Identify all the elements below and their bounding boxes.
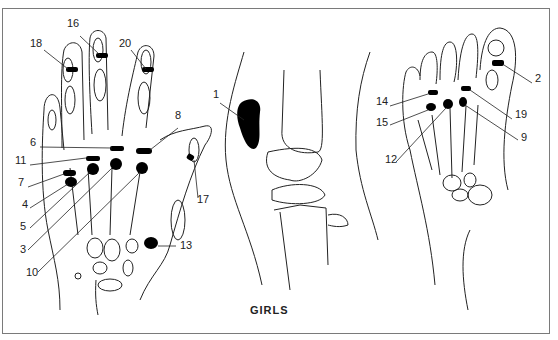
callout-label-5: 5	[20, 221, 26, 232]
callout-label-6: 6	[30, 137, 36, 148]
knee-drawing	[225, 52, 378, 290]
callout-label-10: 10	[26, 267, 38, 278]
callout-label-15: 15	[376, 117, 388, 128]
callout-label-14: 14	[376, 96, 388, 107]
callout-label-3: 3	[20, 244, 26, 255]
callout-label-19: 19	[515, 109, 527, 120]
callout-label-12: 12	[385, 154, 397, 165]
foot-drawing	[403, 28, 516, 310]
ossification-diagram	[0, 0, 558, 340]
callout-label-11: 11	[15, 155, 26, 166]
callout-label-4: 4	[22, 199, 28, 210]
callout-label-20: 20	[119, 38, 131, 49]
callout-label-7: 7	[18, 177, 24, 188]
callout-label-18: 18	[30, 38, 42, 49]
callout-label-16: 16	[67, 18, 79, 29]
callout-label-9: 9	[521, 132, 527, 143]
callout-label-13: 13	[180, 240, 192, 251]
callout-label-17: 17	[197, 194, 209, 205]
figure-caption: GIRLS	[250, 304, 289, 316]
callout-label-2: 2	[535, 73, 541, 84]
callout-label-1: 1	[213, 89, 219, 100]
callout-label-8: 8	[175, 110, 181, 121]
